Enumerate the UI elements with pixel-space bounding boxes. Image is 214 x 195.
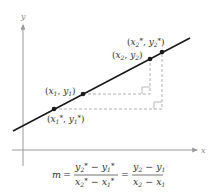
point-x1-y1 [81, 92, 86, 97]
formula-lhs: m [52, 169, 61, 180]
slope-formula: m = y2*−y1* x2*−x1* = y2−y1 x2−x1 [52, 161, 165, 188]
x-axis-label: x [201, 146, 206, 155]
label-x2-y2: (x2, y2) [112, 50, 143, 61]
frac1-denominator: x2*−x1* [75, 176, 115, 188]
frac2-denominator: x2−x1 [133, 176, 165, 188]
label-x1star-y1star: (x1*, y1*) [47, 114, 85, 125]
formula-eq-2: = [121, 169, 129, 180]
point-x2-y2 [148, 57, 153, 62]
formula-eq-1: = [63, 169, 71, 180]
slope-diagram: y x (x1, y1) (x1*, y1*) (x2, y2) (x2*, y… [0, 0, 214, 195]
frac1-numerator: y2*−y1* [74, 161, 115, 173]
right-angle-markers [142, 87, 162, 109]
right-angle-inner [142, 87, 150, 94]
point-x1star-y1star [52, 107, 57, 112]
label-x2star-y2star: (x2*, y2*) [127, 37, 165, 48]
label-x1-y1: (x1, y1) [45, 86, 76, 97]
right-angle-outer [154, 102, 162, 109]
y-axis-label: y [20, 12, 26, 21]
frac2-numerator: y2−y1 [132, 161, 165, 173]
point-x2star-y2star [160, 50, 165, 55]
